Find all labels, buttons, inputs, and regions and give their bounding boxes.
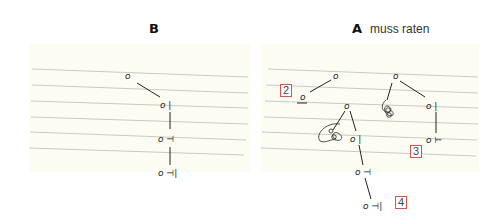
tag-3: 3	[410, 145, 422, 158]
drawing-layer: o o | o ⊣ o ⊣| o o o o | o ⊣ o ⊣| o o | …	[0, 0, 502, 222]
tree-node: o	[125, 71, 131, 81]
tree-node: o ⊣|	[363, 201, 382, 211]
panel-a-rule-lines	[261, 69, 478, 156]
tree-a-nodes: o o o o | o ⊣ o ⊣| o o | o ⊢	[300, 71, 442, 211]
tree-node: o |	[426, 101, 437, 111]
tree-node: o ⊣	[355, 167, 371, 177]
tree-node: o	[300, 92, 306, 102]
tree-b-nodes: o o | o ⊣ o ⊣|	[125, 71, 177, 178]
scribble-icon	[319, 124, 342, 142]
tree-node: o	[393, 71, 399, 81]
tree-node: o ⊣	[158, 134, 174, 144]
tag-2: 2	[280, 84, 292, 97]
tree-a-edges	[297, 80, 436, 199]
tree-node: o ⊣|	[158, 168, 177, 178]
tree-node: o	[333, 71, 339, 81]
tree-node: o ⊢	[426, 135, 442, 145]
tree-node: o	[344, 101, 350, 111]
panel-b-rule-lines	[29, 69, 248, 155]
scribble-icon	[382, 100, 393, 117]
tree-node: o |	[350, 134, 361, 144]
tree-node: o |	[160, 100, 171, 110]
tag-4: 4	[395, 196, 407, 209]
